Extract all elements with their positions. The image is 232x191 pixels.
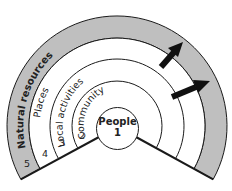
people-label: People: [98, 116, 137, 127]
people-number: 1: [114, 127, 121, 138]
ring-5-number: 5: [24, 158, 30, 169]
concentric-ring-diagram: Natural resources Places Local activitie…: [0, 0, 232, 191]
ring-2-number: 2: [79, 130, 85, 141]
ring-4-number: 4: [42, 148, 48, 159]
ring-3-number: 3: [59, 137, 65, 148]
